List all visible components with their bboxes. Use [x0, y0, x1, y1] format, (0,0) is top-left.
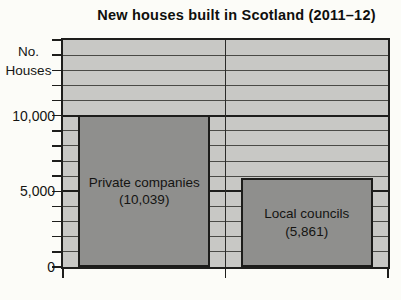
bar-category-label: Private companies — [89, 174, 200, 192]
y-axis-tick — [52, 39, 61, 41]
bar-local-councils: Local councils(5,861) — [241, 178, 373, 267]
y-axis-tick — [52, 206, 61, 208]
chart-title: New houses built in Scotland (2011–12) — [74, 7, 399, 23]
x-axis-tick — [225, 267, 227, 278]
y-tick-label: 10,000 — [0, 107, 55, 125]
bar-value-label: (10,039) — [119, 191, 169, 209]
y-axis-tick — [52, 251, 61, 253]
y-axis-tick — [52, 100, 61, 102]
x-axis-tick — [62, 267, 64, 278]
y-axis-label-line2: Houses — [2, 61, 55, 80]
bar-private-companies: Private companies(10,039) — [78, 115, 210, 267]
plot-area: Private companies(10,039)Local councils(… — [61, 38, 390, 269]
y-tick-label: 0 — [0, 258, 55, 276]
y-axis-tick — [52, 130, 61, 132]
chart-page: New houses built in Scotland (2011–12) N… — [0, 0, 401, 300]
y-axis-tick — [52, 221, 61, 223]
y-axis-tick — [52, 160, 61, 162]
y-axis-tick — [52, 85, 61, 87]
y-axis-tick — [52, 175, 61, 177]
y-axis-label: No. Houses — [2, 42, 55, 80]
y-tick-label: 5,000 — [0, 182, 55, 200]
bar-value-label: (5,861) — [285, 223, 328, 241]
x-axis-tick — [387, 267, 389, 278]
category-divider-line — [225, 40, 227, 267]
y-axis-tick — [52, 236, 61, 238]
y-axis-tick — [52, 54, 61, 56]
bar-category-label: Local councils — [264, 205, 349, 223]
y-axis-tick — [52, 70, 61, 72]
y-axis-tick — [52, 145, 61, 147]
y-axis-label-line1: No. — [2, 42, 55, 61]
